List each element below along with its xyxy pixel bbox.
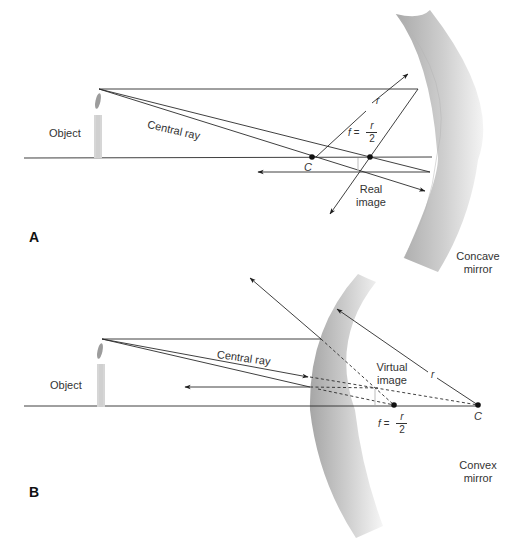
real-image-label-a: Real image [356, 183, 386, 209]
concave-mirror-label: Concave mirror [453, 250, 503, 276]
concave-mirror-label-line1: Concave [453, 250, 503, 263]
focal-point-a [367, 154, 373, 160]
object-label-a: Object [49, 127, 81, 140]
real-image-label-line1: Real [356, 183, 386, 196]
virtual-image-label-b: Virtual image [372, 361, 412, 387]
candle-body-b [97, 364, 105, 407]
object-label-b: Object [50, 379, 82, 392]
panel-a [24, 10, 483, 272]
virtual-image-label-line1: Virtual [372, 361, 412, 374]
convex-mirror-label-line2: mirror [453, 472, 503, 485]
center-label-b: C [474, 410, 482, 423]
virtual-image-label-line2: image [372, 374, 412, 387]
convex-mirror-label: Convex mirror [453, 459, 503, 485]
radius-label-a: r [376, 94, 379, 107]
optics-diagram [0, 0, 529, 541]
panel-b [24, 274, 481, 538]
focal-point-b [391, 402, 397, 408]
convex-mirror-label-line1: Convex [453, 459, 503, 472]
focal-numerator-b: r [397, 411, 407, 422]
candle-body-a [94, 115, 102, 158]
panel-label-a: A [29, 229, 39, 245]
center-label-a: C [304, 161, 312, 174]
focal-denominator-b: 2 [397, 424, 407, 435]
focal-length-label-b: f = r 2 [378, 418, 410, 440]
real-image-label-line2: image [356, 196, 386, 209]
panel-label-b: B [29, 484, 39, 500]
concave-mirror-label-line2: mirror [453, 263, 503, 276]
focal-prefix-b: f = [378, 418, 389, 429]
focal-numerator-a: r [367, 120, 377, 131]
focal-prefix-a: f = [348, 127, 359, 138]
focal-length-label-a: f = r 2 [348, 127, 380, 149]
center-point-a [309, 154, 315, 160]
center-point-b [475, 402, 481, 408]
radius-label-b: r [431, 368, 434, 381]
flame-b [96, 343, 104, 360]
flame-a [94, 93, 102, 110]
focal-denominator-a: 2 [367, 133, 377, 144]
